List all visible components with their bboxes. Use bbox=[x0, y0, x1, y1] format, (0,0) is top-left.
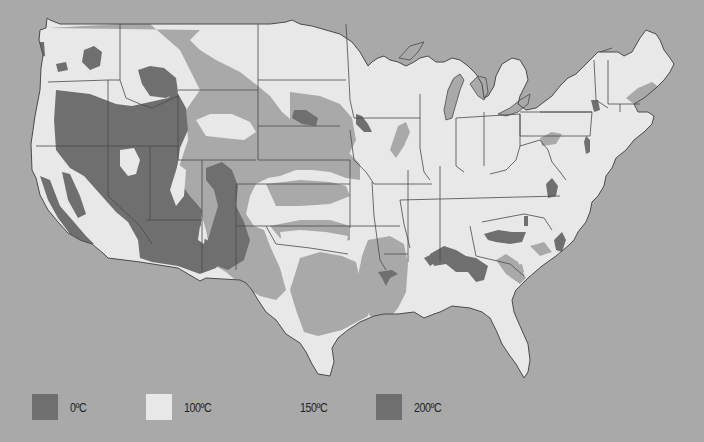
state-border bbox=[600, 48, 612, 52]
legend-label-100c: 100ºC bbox=[184, 400, 211, 415]
legend-swatch-0c bbox=[32, 394, 58, 420]
legend-item-200c: 200ºC bbox=[376, 392, 447, 422]
legend-label-150c: 150ºC bbox=[300, 400, 327, 415]
legend-label-0c: 0ºC bbox=[70, 400, 86, 415]
legend-swatch-150c bbox=[262, 394, 288, 420]
legend-swatch-100c bbox=[146, 394, 172, 420]
lake bbox=[399, 42, 424, 60]
legend-item-100c: 100ºC bbox=[146, 392, 217, 422]
legend: 0ºC 100ºC 150ºC 200ºC bbox=[0, 392, 704, 432]
legend-item-0c: 0ºC bbox=[32, 392, 90, 422]
legend-label-200c: 200ºC bbox=[414, 400, 441, 415]
map-canvas bbox=[0, 0, 704, 392]
legend-swatch-200c bbox=[376, 394, 402, 420]
legend-item-150c: 150ºC bbox=[262, 392, 333, 422]
zone-0c bbox=[524, 216, 528, 226]
us-temperature-map bbox=[0, 0, 704, 442]
